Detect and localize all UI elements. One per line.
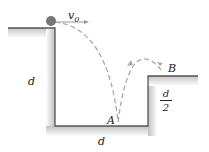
floor-width-label: d — [98, 136, 105, 147]
trajectory-arrow-icon — [157, 62, 163, 66]
left-wall-shade — [46, 28, 55, 134]
ledge-height-fraction: d 2 — [160, 88, 172, 113]
wall-height-label: d — [28, 76, 35, 87]
trajectory-fall — [55, 22, 118, 122]
fraction-numerator: d — [160, 88, 172, 99]
trajectory-arrow-icon — [127, 60, 133, 66]
point-a-label: A — [107, 115, 115, 126]
velocity-arrowhead-icon — [84, 20, 89, 24]
fraction-bar — [160, 100, 172, 101]
initial-velocity-label: v0 — [68, 10, 79, 24]
ball-icon — [46, 16, 56, 26]
right-ledge-shade — [148, 76, 198, 86]
point-b-label: B — [168, 63, 176, 74]
fraction-denominator: 2 — [160, 102, 172, 113]
